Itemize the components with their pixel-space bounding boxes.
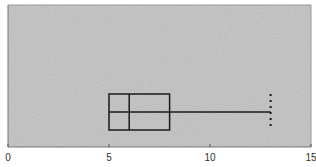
x-tick-label: 0 [5,152,11,163]
x-tick-label: 15 [305,152,316,163]
plot-area [8,5,311,147]
plot-background [8,5,311,147]
x-axis: 051015 [5,144,316,163]
x-tick-label: 5 [106,152,112,163]
box-plot-chart: 051015 [0,0,316,167]
x-tick-label: 10 [204,152,216,163]
